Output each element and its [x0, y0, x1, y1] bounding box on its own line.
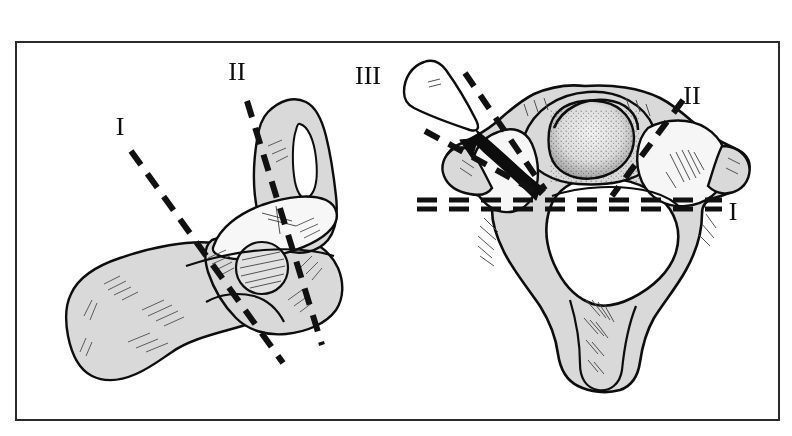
label-three-right: III — [355, 61, 381, 90]
figure-root: I II III II I — [0, 0, 792, 436]
label-one-left: I — [116, 112, 125, 141]
label-one-right: I — [729, 197, 738, 226]
label-two-left: II — [228, 57, 245, 86]
label-two-right: II — [683, 81, 700, 110]
vertebra-illustration: I II III II I — [0, 0, 792, 436]
superior-tubercle-stipple — [550, 110, 640, 182]
